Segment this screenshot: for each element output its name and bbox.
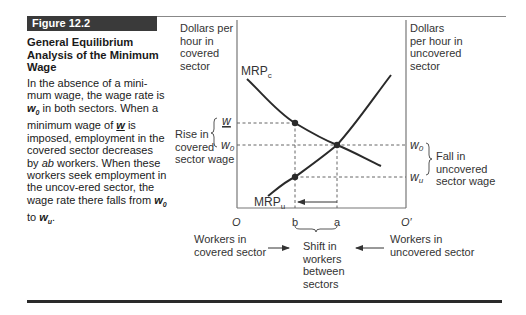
bottom-rule <box>27 300 502 303</box>
w0-left-label: w0 <box>221 138 235 153</box>
wu-label: wu <box>410 170 424 185</box>
point-equilibrium <box>334 142 340 148</box>
fall-brace <box>426 143 432 175</box>
w0-right-label: w0 <box>410 138 424 153</box>
origin-left-label: O <box>232 216 241 228</box>
w-label: w <box>222 114 232 128</box>
point-wu <box>292 174 298 180</box>
mrp-c-label: MRPc <box>241 64 272 80</box>
b-tick-label: b <box>292 216 298 228</box>
point-w <box>292 120 298 126</box>
rise-brace <box>211 118 217 147</box>
shift-brace <box>295 226 337 232</box>
mrp-u-label: MRPu <box>254 195 285 211</box>
a-tick-label: a <box>334 216 341 228</box>
mrp-u-curve <box>268 75 391 196</box>
origin-right-label: O′ <box>401 216 413 228</box>
chart: MRPc MRPu w w0 w0 wu O O′ b a <box>0 0 526 315</box>
axes <box>237 20 406 208</box>
